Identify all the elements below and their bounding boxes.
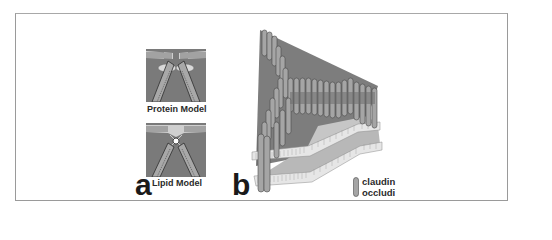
caption-protein-model: Protein Model xyxy=(147,104,207,114)
caption-lipid-model: Lipid Model xyxy=(152,178,202,188)
tight-junction-3d-illustration xyxy=(248,26,388,194)
panel-label-a: a xyxy=(135,170,152,200)
protein-model-illustration xyxy=(146,49,206,102)
legend-occludin: occludi xyxy=(362,187,395,198)
lipid-model-illustration xyxy=(146,123,206,177)
panel-label-b: b xyxy=(232,170,250,200)
claudin-cylinder-icon xyxy=(353,177,359,197)
legend-claudin: claudin xyxy=(362,176,395,187)
